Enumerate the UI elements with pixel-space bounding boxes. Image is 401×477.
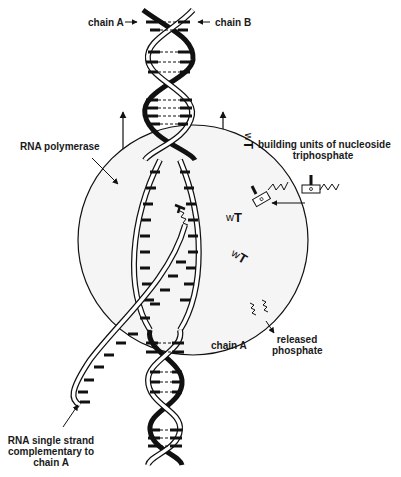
label-building-units: building units of nucleoside triphosphat…: [258, 139, 388, 161]
label-building-units-line1: building units of nucleoside: [258, 139, 388, 150]
label-chain-a-bottom: chain A: [211, 340, 247, 351]
svg-text:w: w: [243, 132, 255, 141]
label-rna-strand-line3: chain A: [6, 457, 96, 468]
svg-text:T: T: [241, 141, 256, 149]
pointer-rna-strand: [63, 405, 78, 427]
label-rna-strand: RNA single strand complementary to chain…: [6, 435, 96, 468]
label-chain-b-top: chain B: [215, 17, 251, 28]
label-released-line2: phosphate: [272, 345, 322, 356]
label-released-line1: released: [272, 334, 322, 345]
nucleotide-unit-outside: w T: [241, 132, 256, 149]
label-building-units-line2: triphosphate: [258, 150, 388, 161]
nucleotide-free: [302, 175, 339, 193]
label-released-phosphate: released phosphate: [272, 334, 322, 356]
transcription-diagram: w T w T w T: [0, 0, 401, 477]
nucleotide-unit-1: w T: [225, 210, 242, 225]
label-chain-a-top: chain A: [88, 17, 124, 28]
svg-text:T: T: [234, 210, 242, 225]
svg-text:w: w: [225, 211, 234, 223]
label-rna-polymerase: RNA polymerase: [20, 141, 100, 152]
label-rna-strand-line2: complementary to: [6, 446, 96, 457]
label-rna-strand-line1: RNA single strand: [6, 435, 96, 446]
